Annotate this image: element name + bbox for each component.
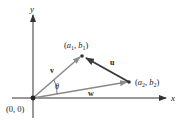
vector-v-label: v <box>50 66 54 75</box>
vector-w <box>33 82 127 98</box>
vector-u <box>86 58 129 82</box>
point-a1-b1-label: (a1, b1) <box>64 40 89 51</box>
x-axis-label: x <box>170 93 175 103</box>
vector-u-label: u <box>110 58 115 67</box>
point-a2-b2 <box>127 80 131 84</box>
point-a2-b2-label: (a2, b2) <box>135 77 160 88</box>
point-a1-b1 <box>80 54 84 58</box>
vector-diagram: y x (0, 0) v w u θ (a1, b1) (a2, b2) <box>0 0 181 124</box>
theta-label: θ <box>55 82 59 91</box>
origin-label: (0, 0) <box>6 104 25 114</box>
vector-w-label: w <box>88 89 94 98</box>
diagram-svg: y x (0, 0) v w u θ (a1, b1) (a2, b2) <box>0 0 181 124</box>
origin-point <box>31 96 36 101</box>
y-axis-label: y <box>29 4 34 14</box>
